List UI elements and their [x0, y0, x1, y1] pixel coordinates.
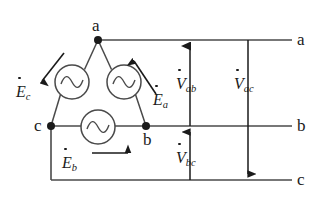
voltage-label-vbc: Vbc: [176, 150, 196, 169]
emf-subscript-ec: c: [26, 91, 31, 102]
terminal-label-c: c: [297, 171, 305, 188]
terminal-label-b: b: [297, 117, 306, 134]
voltage-letter-vbc: V: [176, 149, 186, 166]
node-c-dot: [47, 122, 55, 130]
ac-source-eb: [81, 110, 115, 144]
voltage-letter-vab: V: [176, 75, 186, 92]
voltage-label-vab: Vab: [176, 76, 196, 95]
voltage-label-vac: Vac: [234, 76, 254, 95]
node-label-b: b: [143, 131, 152, 148]
node-b-dot: [142, 122, 150, 130]
ac-source-ec: [55, 65, 89, 99]
node-label-a: a: [92, 17, 100, 34]
voltage-letter-vac: V: [234, 75, 244, 92]
emf-label-eb: Eb: [62, 155, 77, 174]
figure-canvas: a c b a b c Ec Ea Eb Vab Vbc Vac: [0, 0, 328, 200]
emf-label-ec: Ec: [16, 84, 30, 103]
node-a-dot: [94, 36, 102, 44]
emf-subscript-eb: b: [72, 162, 77, 173]
voltage-subscript-vbc: bc: [186, 157, 196, 168]
emf-letter-ea: E: [153, 91, 163, 108]
voltage-subscript-vac: ac: [244, 83, 254, 94]
ac-source-ea: [107, 65, 141, 99]
terminal-label-a: a: [297, 31, 305, 48]
emf-letter-eb: E: [62, 154, 72, 171]
emf-label-ea: Ea: [153, 92, 168, 111]
emf-subscript-ea: a: [163, 99, 168, 110]
node-label-c: c: [34, 117, 42, 134]
emf-letter-ec: E: [16, 83, 26, 100]
voltage-subscript-vab: ab: [186, 83, 197, 94]
